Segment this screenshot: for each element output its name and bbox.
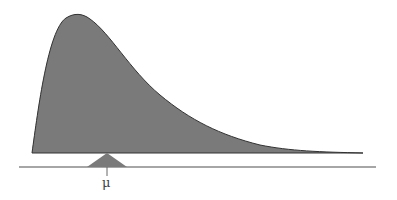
fulcrum-triangle (87, 153, 127, 167)
density-curve (32, 14, 363, 153)
skewed-distribution-diagram (0, 0, 397, 200)
mean-label: μ (102, 175, 110, 190)
